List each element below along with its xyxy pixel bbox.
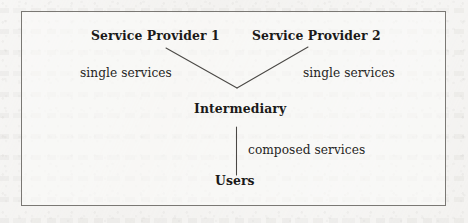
edge-label-composed-services: composed services	[248, 144, 365, 156]
node-label-service-provider-2: Service Provider 2	[252, 30, 381, 42]
node-label-users: Users	[215, 175, 255, 187]
scanned-page: Service Provider 1 Service Provider 2 si…	[0, 0, 468, 223]
node-label-intermediary: Intermediary	[194, 103, 286, 115]
node-label-service-provider-1: Service Provider 1	[91, 30, 220, 42]
edge-label-single-services-right: single services	[303, 67, 395, 79]
edge-label-single-services-left: single services	[80, 67, 172, 79]
